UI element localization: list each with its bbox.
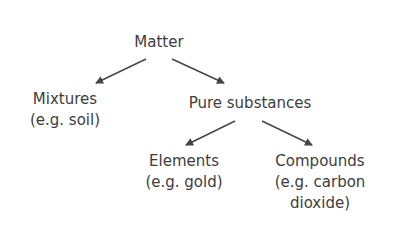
arrow-matter-to-pure — [172, 59, 224, 83]
elements-label: Elements — [145, 151, 222, 172]
elements-example: (e.g. gold) — [145, 172, 222, 193]
node-pure-substances: Pure substances — [189, 93, 312, 114]
arrow-pure-to-elements — [186, 121, 235, 145]
compounds-example-line1: (e.g. carbon — [275, 172, 366, 193]
matter-label: Matter — [134, 32, 183, 53]
node-elements: Elements (e.g. gold) — [145, 151, 222, 193]
node-compounds: Compounds (e.g. carbon dioxide) — [275, 151, 366, 214]
mixtures-label: Mixtures — [30, 89, 100, 110]
mixtures-example: (e.g. soil) — [30, 110, 100, 131]
node-matter: Matter — [134, 32, 183, 53]
compounds-label: Compounds — [275, 151, 366, 172]
arrow-matter-to-mixtures — [96, 59, 146, 83]
compounds-example-line2: dioxide) — [275, 193, 366, 214]
arrow-pure-to-compounds — [262, 121, 312, 145]
node-mixtures: Mixtures (e.g. soil) — [30, 89, 100, 131]
pure-substances-label: Pure substances — [189, 93, 312, 114]
